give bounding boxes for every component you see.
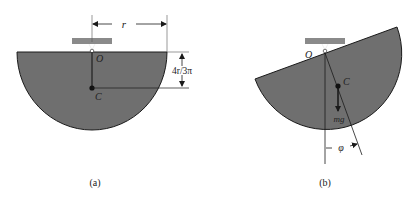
centroid-label: C [343,76,350,87]
figure-a: r O C 4r/3π (a) [17,15,192,189]
fixed-support [305,38,345,44]
weight-label: mg [334,114,345,124]
angle-label: φ [338,142,344,153]
caption-b: (b) [319,177,331,189]
radius-label: r [122,18,127,30]
centroid-point [335,83,340,88]
pivot-label: O [96,53,103,64]
centroid-label: C [95,91,102,102]
caption-a: (a) [89,177,100,189]
pivot-label: O [305,49,312,60]
centroid-offset-label: 4r/3π [172,66,192,76]
figure-b: O C mg φ (b) [255,27,402,189]
semicircular-disk-diagram: r O C 4r/3π (a) O C mg φ [0,0,415,199]
